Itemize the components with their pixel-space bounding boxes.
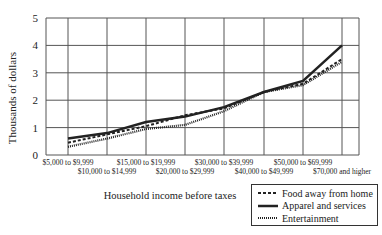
legend: Food away from home Apparel and services… [251,184,378,226]
legend-label: Entertainment [282,213,339,224]
y-tick-label: 0 [33,149,39,161]
legend-item-entertainment: Entertainment [258,212,377,225]
x-tick-label: $70,000 and higher [313,167,372,176]
legend-item-apparel: Apparel and services [258,200,377,213]
y-tick-label: 3 [33,67,39,79]
y-tick-label: 1 [33,122,39,134]
solid-line-icon [258,203,278,209]
y-tick-label: 5 [33,12,39,24]
x-tick-label: $20,000 to $29,999 [156,167,215,176]
x-tick-label: $10,000 to $14,999 [78,167,137,176]
dashed-line-icon [258,190,278,196]
legend-item-food: Food away from home [258,187,377,200]
y-tick-label: 4 [33,39,39,51]
x-tick-label: $30,000 to $39,999 [195,158,254,167]
dotted-line-icon [258,215,278,221]
series-line [68,45,342,138]
legend-label: Apparel and services [282,200,366,211]
series-line [68,59,342,143]
x-tick-label: $15,000 to $19,999 [117,158,176,167]
x-tick-label: $50,000 to $69,999 [274,158,333,167]
x-tick-label: $5,000 to $9,999 [43,158,94,167]
legend-label: Food away from home [282,188,373,199]
y-axis-label: Thousands of dollars [2,88,22,108]
x-tick-label: $40,000 to $49,999 [235,167,294,176]
y-tick-label: 2 [33,94,39,106]
y-axis-label-text: Thousands of dollars [6,52,18,144]
